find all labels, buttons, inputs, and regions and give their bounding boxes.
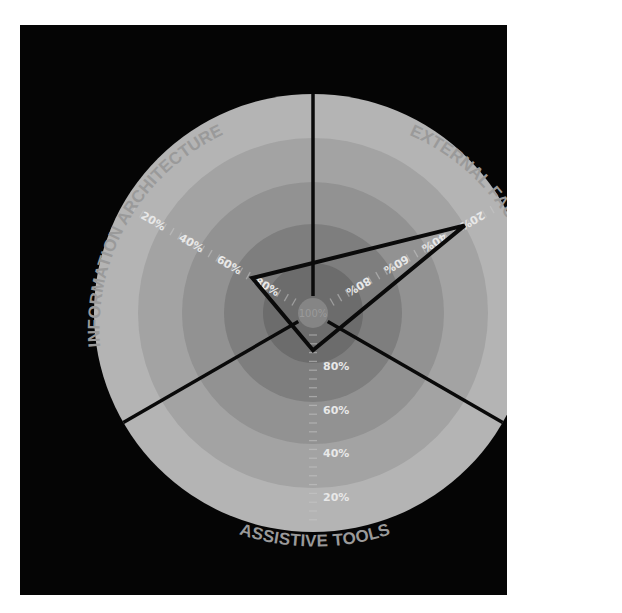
center-hub: 100% [298, 298, 328, 328]
chart-panel: 100% 80%60%40%20%80%60%40%20%80%60%40%20… [20, 25, 507, 595]
tick-label: 20% [323, 491, 349, 504]
tick-label: 40% [323, 447, 349, 460]
center-label: 100% [299, 308, 328, 319]
tick-label: 80% [323, 360, 349, 373]
tick-label: 60% [323, 404, 349, 417]
radar-chart: 100% 80%60%40%20%80%60%40%20%80%60%40%20… [20, 25, 507, 595]
